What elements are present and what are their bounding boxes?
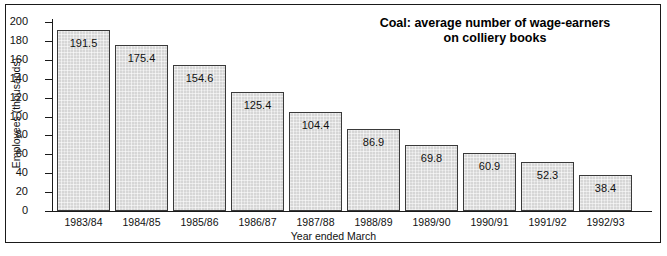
x-tick-label: 1986/87 [227,216,288,228]
x-tick-label: 1988/89 [343,216,404,228]
bar-value-label: 60.9 [463,160,516,172]
chart-title-line-2: on colliery books [360,31,630,46]
x-tick-label: 1984/85 [111,216,172,228]
y-tick-mark [45,79,52,80]
x-tick-label: 1985/86 [169,216,230,228]
bar-value-label: 69.8 [405,152,458,164]
y-tick-label: 120 [0,92,28,103]
y-tick-mark [45,135,52,136]
y-tick-label: 60 [0,148,28,159]
bar-value-label: 175.4 [115,52,168,64]
y-tick-mark [45,117,52,118]
y-tick-label: 40 [0,167,28,178]
bar[interactable] [57,30,110,211]
bar[interactable] [173,65,226,211]
y-tick-label: 200 [0,16,28,27]
x-tick-label: 1990/91 [459,216,520,228]
y-tick-mark [45,22,52,23]
bar-value-label: 38.4 [579,182,632,194]
bar-value-label: 52.3 [521,169,574,181]
x-tick-label: 1992/93 [575,216,636,228]
x-tick-label: 1987/88 [285,216,346,228]
bar-value-label: 104.4 [289,119,342,131]
y-tick-mark [45,173,52,174]
x-tick-label: 1983/84 [53,216,114,228]
bar-value-label: 191.5 [57,37,110,49]
plot-area: Coal: average number of wage-earners on … [0,0,667,256]
y-tick-label: 20 [0,186,28,197]
y-tick-label: 80 [0,129,28,140]
y-axis-line [52,19,53,212]
x-tick-label: 1989/90 [401,216,462,228]
bar[interactable] [115,45,168,211]
y-tick-label: 160 [0,54,28,65]
x-tick-label: 1991/92 [517,216,578,228]
y-tick-mark [45,41,52,42]
y-tick-mark [45,211,52,212]
x-axis-title: Year ended March [0,230,667,242]
chart-figure: Coal: average number of wage-earners on … [0,0,667,256]
y-tick-mark [45,98,52,99]
x-axis-line [52,211,652,212]
y-tick-label: 180 [0,35,28,46]
bar-value-label: 86.9 [347,136,400,148]
y-tick-label: 100 [0,111,28,122]
bar-value-label: 154.6 [173,72,226,84]
bar-value-label: 125.4 [231,99,284,111]
y-tick-mark [45,60,52,61]
chart-title: Coal: average number of wage-earners on … [360,16,630,46]
chart-title-line-1: Coal: average number of wage-earners [360,16,630,31]
y-tick-mark [45,154,52,155]
y-tick-label: 140 [0,73,28,84]
y-tick-mark [45,192,52,193]
y-tick-label: 0 [0,205,28,216]
